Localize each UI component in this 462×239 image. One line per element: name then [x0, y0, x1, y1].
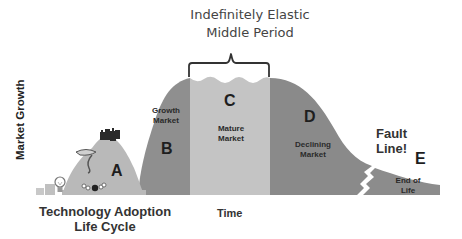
y-axis-label: Market Growth: [14, 79, 26, 160]
fault-line-label-2: Line!: [376, 141, 407, 156]
stage-e-label-line-1: End of: [388, 176, 428, 186]
stage-b-label-line-2: Market: [148, 116, 184, 126]
stage-a-letter: A: [111, 162, 123, 180]
stage-c-label: Mature Market: [211, 124, 251, 144]
base-step-1: [36, 188, 44, 195]
lightbulb-icon: [55, 177, 65, 192]
stage-d-label-line-2: Market: [290, 150, 336, 160]
stage-d-letter: D: [304, 108, 316, 126]
fault-line-label: Fault Line!: [376, 126, 407, 156]
stage-d-area: [270, 78, 372, 195]
diagram-title: Indefinitely Elastic Middle Period: [150, 6, 350, 42]
stage-c-label-line-2: Market: [211, 134, 251, 144]
stage-b-label-line-1: Growth: [148, 106, 184, 116]
stage-e-label-line-2: Life: [388, 186, 428, 196]
tech-adoption-line-2: Life Cycle: [30, 219, 180, 234]
stage-c-label-line-1: Mature: [211, 124, 251, 134]
base-step-2: [45, 184, 55, 195]
stage-b-area: [138, 78, 190, 195]
x-axis-label: Time: [217, 207, 242, 219]
title-line-1: Indefinitely Elastic: [150, 6, 350, 24]
stage-e-label: End of Life: [388, 176, 428, 196]
stage-a-base: [62, 190, 146, 195]
stage-e-letter: E: [415, 150, 426, 168]
stage-d-label-line-1: Declining: [290, 140, 336, 150]
stage-c-letter: C: [224, 92, 236, 110]
stage-b-letter: B: [161, 140, 173, 158]
castle-icon: [100, 128, 120, 141]
bracket-icon: [189, 54, 269, 77]
stage-d-label: Declining Market: [290, 140, 336, 160]
technology-adoption-label: Technology Adoption Life Cycle: [30, 204, 180, 234]
stage-b-label: Growth Market: [148, 106, 184, 126]
fault-line-label-1: Fault: [376, 126, 407, 141]
tech-adoption-line-1: Technology Adoption: [30, 204, 180, 219]
title-line-2: Middle Period: [150, 24, 350, 42]
